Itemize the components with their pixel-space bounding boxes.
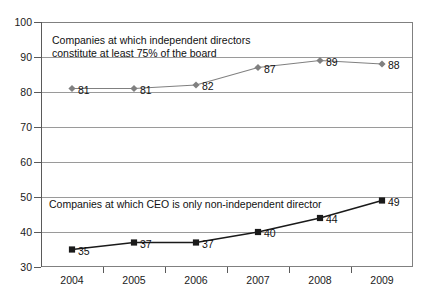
y-tick-label: 80 <box>2 86 32 98</box>
y-tick-label: 90 <box>2 51 32 63</box>
data-point-value-label: 87 <box>264 63 276 75</box>
data-point-value-label: 49 <box>388 196 400 208</box>
y-tick-label: 40 <box>2 226 32 238</box>
x-tick-mark <box>289 267 290 273</box>
gridline <box>42 127 412 128</box>
y-tick-mark <box>34 92 41 93</box>
x-tick-label: 2006 <box>184 274 207 286</box>
y-tick-label: 50 <box>2 191 32 203</box>
data-point-value-label: 35 <box>78 245 90 257</box>
y-tick-mark <box>34 197 41 198</box>
x-tick-label: 2005 <box>122 274 145 286</box>
y-tick-label: 100 <box>2 16 32 28</box>
data-point-value-label: 89 <box>326 56 338 68</box>
x-tick-label: 2004 <box>60 274 83 286</box>
x-tick-mark <box>103 267 104 273</box>
y-tick-mark <box>34 57 41 58</box>
x-tick-mark <box>351 267 352 273</box>
data-point-value-label: 82 <box>202 80 214 92</box>
y-tick-mark <box>34 162 41 163</box>
x-tick-label: 2008 <box>308 274 331 286</box>
data-point-value-label: 37 <box>140 238 152 250</box>
y-tick-mark <box>34 232 41 233</box>
y-tick-mark <box>34 127 41 128</box>
data-point-value-label: 37 <box>202 238 214 250</box>
y-tick-mark <box>34 22 41 23</box>
data-point-value-label: 81 <box>140 84 152 96</box>
x-tick-mark <box>165 267 166 273</box>
x-tick-mark <box>227 267 228 273</box>
y-tick-mark <box>34 267 41 268</box>
y-axis-labels: 30405060708090100 <box>0 0 32 298</box>
series-annotation-independent-directors: Companies at which independent directors… <box>52 34 250 59</box>
series-annotation-ceo-only: Companies at which CEO is only non-indep… <box>49 198 322 211</box>
gridline <box>42 232 412 233</box>
y-axis-line <box>41 22 42 267</box>
chart-container: 30405060708090100 8181828789883537374044… <box>0 0 430 298</box>
y-tick-label: 30 <box>2 261 32 273</box>
x-tick-label: 2009 <box>370 274 393 286</box>
data-point-value-label: 40 <box>264 227 276 239</box>
x-tick-label: 2007 <box>246 274 269 286</box>
y-tick-label: 70 <box>2 121 32 133</box>
gridline <box>42 162 412 163</box>
y-tick-label: 60 <box>2 156 32 168</box>
data-point-value-label: 44 <box>326 213 338 225</box>
data-point-value-label: 88 <box>388 59 400 71</box>
data-point-value-label: 81 <box>78 84 90 96</box>
gridline <box>42 92 412 93</box>
